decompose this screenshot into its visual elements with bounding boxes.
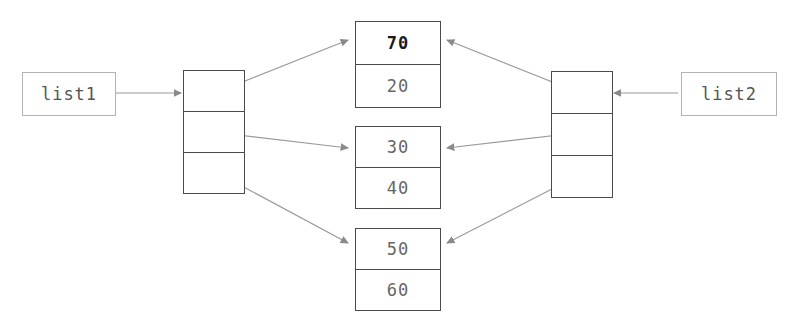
pointer-block-left xyxy=(183,70,245,194)
value-slot-30: 30 xyxy=(356,127,440,168)
pointer-cell-right-2 xyxy=(552,114,612,156)
label-text-list2: list2 xyxy=(701,84,757,104)
pointer-cell-right-3 xyxy=(552,156,612,197)
value-slot-60: 60 xyxy=(356,270,440,310)
pointer-cell-left-1 xyxy=(184,71,244,112)
pointer-cell-left-3 xyxy=(184,153,244,193)
pointer-cell-left-2 xyxy=(184,112,244,153)
value-slot-70: 70 xyxy=(356,22,440,65)
value-slot-50: 50 xyxy=(356,229,440,270)
value-box-node-middle: 30 40 xyxy=(355,126,441,209)
label-box-list1: list1 xyxy=(22,72,116,116)
value-box-node-top: 70 20 xyxy=(355,21,441,108)
pointer-cell-right-1 xyxy=(552,72,612,114)
value-slot-40: 40 xyxy=(356,168,440,208)
value-slot-20: 20 xyxy=(356,65,440,107)
pointer-block-right xyxy=(551,71,613,198)
label-box-list2: list2 xyxy=(681,72,777,116)
label-text-list1: list1 xyxy=(41,84,97,104)
diagram-canvas: list1 70 20 30 40 50 60 list2 xyxy=(0,0,807,326)
value-box-node-bottom: 50 60 xyxy=(355,228,441,311)
